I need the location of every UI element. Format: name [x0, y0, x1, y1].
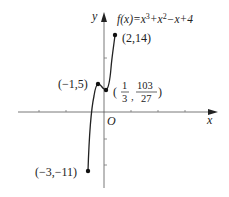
svg-text:(: ( — [113, 85, 117, 99]
point-marker — [113, 33, 117, 37]
svg-text:1: 1 — [122, 80, 127, 91]
svg-text:103: 103 — [137, 80, 153, 91]
point-label-neg3-neg11: (−3,−11) — [35, 165, 77, 179]
svg-text:27: 27 — [141, 93, 152, 104]
y-axis-ticks — [104, 58, 107, 165]
svg-text:): ) — [158, 85, 162, 99]
point-marker — [104, 88, 108, 92]
point-marker — [96, 82, 100, 86]
x-axis-label: x — [206, 113, 213, 127]
function-curve — [88, 35, 115, 171]
y-axis-arrow-icon — [101, 12, 107, 22]
point-label-2-14: (2,14) — [122, 31, 151, 45]
point-label-neg1-5: (−1,5) — [58, 77, 88, 91]
svg-text:,: , — [131, 90, 134, 102]
origin-label: O — [107, 114, 116, 128]
svg-text:3: 3 — [122, 93, 127, 104]
function-graph: y x O f(x)=x3+x2−x+4 (2,14) (−1,5) ( 1 3… — [0, 0, 229, 197]
function-label: f(x)=x3+x2−x+4 — [117, 12, 193, 26]
point-marker — [86, 169, 90, 173]
y-axis-label: y — [91, 9, 98, 23]
point-label-min: ( 1 3 , 103 27 ) — [113, 80, 162, 104]
